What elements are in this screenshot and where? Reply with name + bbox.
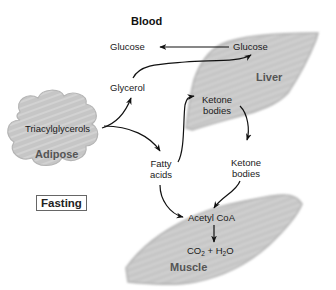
acetyl-coa-label: Acetyl CoA	[188, 212, 235, 223]
fatty-acids-line2: acids	[143, 169, 179, 180]
fatty-acids-label: Fatty acids	[143, 158, 179, 180]
blood-title: Blood	[131, 15, 162, 27]
adipose-label: Adipose	[35, 148, 78, 160]
h2o-h-text: H	[216, 245, 223, 256]
ketone-liver-line1: Ketone	[197, 94, 237, 105]
co2-h2o-label: CO2 + H2O	[187, 245, 234, 259]
arrow-fatty-acids-to-acetylcoa	[160, 185, 183, 217]
ketone-bodies-liver-label: Ketone bodies	[197, 94, 237, 116]
fatty-acids-line1: Fatty	[143, 158, 179, 169]
glycerol-label: Glycerol	[110, 82, 145, 93]
ketone-blood-line2: bodies	[226, 168, 266, 179]
plus-sign: +	[205, 245, 216, 256]
h2o-o-text: O	[226, 245, 233, 256]
triacylglycerols-label: Triacylglycerols	[25, 123, 90, 134]
arrow-tag-to-fatty-acids	[104, 126, 160, 151]
muscle-label: Muscle	[170, 261, 207, 273]
ketone-liver-line2: bodies	[197, 105, 237, 116]
glucose-liver-label: Glucose	[233, 41, 268, 52]
arrow-tag-to-glycerol	[102, 98, 131, 128]
fasting-condition-box: Fasting	[36, 195, 87, 211]
ketone-blood-line1: Ketone	[226, 157, 266, 168]
glucose-blood-label: Glucose	[110, 41, 145, 52]
diagram-graphics	[0, 0, 336, 290]
metabolism-diagram: Blood Glucose Glucose Liver Glycerol Ket…	[0, 0, 336, 290]
liver-label: Liver	[256, 71, 282, 83]
co2-text: CO	[187, 245, 201, 256]
ketone-bodies-blood-label: Ketone bodies	[226, 157, 266, 179]
